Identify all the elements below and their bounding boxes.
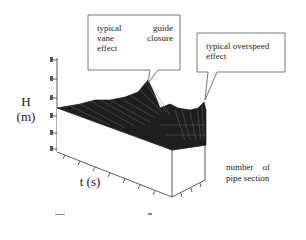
callout-overspeed-text: typical overspeed effect <box>206 41 284 61</box>
h-axis-title-line1: H <box>14 94 38 109</box>
callout-overspeed-line1: typical overspeed <box>206 41 284 51</box>
callout-overspeed-line2: effect <box>206 51 284 61</box>
t-axis-title: t (s) <box>70 174 110 189</box>
h-axis <box>53 58 57 152</box>
callout-guide-vane-line3: effect <box>97 43 173 53</box>
pipe-section-axis-title: number of pipe section <box>226 162 286 184</box>
callout-guide-vane-text: typical guide vane closure effect <box>97 23 173 53</box>
h-axis-title: H (m) <box>14 94 38 124</box>
h-axis-title-line2: (m) <box>14 109 38 124</box>
pipe-section-axis-title-line1: number of <box>226 162 286 173</box>
surface <box>57 80 206 152</box>
h-axis-tick-labels <box>50 57 53 151</box>
callout-guide-vane-line1: typical guide <box>97 23 173 33</box>
callout-guide-vane-line2: vane closure <box>97 33 173 43</box>
pipe-section-axis-title-line2: pipe section <box>226 173 286 184</box>
bottom-marks <box>55 213 152 215</box>
pipe-section-axis <box>172 180 205 197</box>
